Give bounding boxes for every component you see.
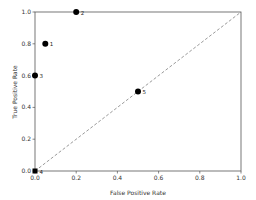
point-label: 5 — [143, 89, 147, 95]
x-tick-label: 0.6 — [154, 174, 164, 181]
y-tick-label: 0.4 — [21, 103, 31, 110]
x-tick-label: 0.4 — [113, 174, 123, 181]
data-points: 12345 — [32, 9, 147, 175]
point-label: 1 — [50, 41, 54, 47]
circle-marker-icon — [42, 41, 48, 47]
data-point-3: 3 — [32, 73, 44, 80]
y-tick-label: 1.0 — [21, 8, 31, 15]
x-axis: 0.00.20.40.60.81.0 — [30, 171, 246, 181]
y-tick-label: 0.8 — [21, 40, 31, 47]
y-tick-label: 0.0 — [21, 167, 31, 174]
x-tick-label: 0.8 — [195, 174, 205, 181]
data-point-2: 2 — [73, 9, 84, 16]
circle-marker-icon — [32, 73, 38, 79]
point-label: 4 — [40, 169, 44, 175]
x-axis-label: False Positive Rate — [110, 189, 166, 196]
y-tick-label: 0.6 — [21, 72, 31, 79]
point-label: 2 — [81, 10, 85, 16]
data-point-5: 5 — [135, 89, 147, 96]
x-tick-label: 0.0 — [30, 174, 40, 181]
roc-scatter-chart: 0.00.20.40.60.81.0 0.00.20.40.60.81.0 12… — [0, 0, 256, 200]
y-axis: 0.00.20.40.60.81.0 — [21, 8, 35, 174]
x-tick-label: 0.2 — [71, 174, 81, 181]
circle-marker-icon — [135, 89, 141, 95]
circle-marker-icon — [73, 9, 79, 15]
square-marker-icon — [33, 169, 38, 174]
point-label: 3 — [40, 73, 44, 79]
x-tick-label: 1.0 — [236, 174, 246, 181]
y-tick-label: 0.2 — [21, 135, 31, 142]
y-axis-label: True Positive Rate — [11, 65, 18, 120]
data-point-1: 1 — [42, 41, 53, 48]
